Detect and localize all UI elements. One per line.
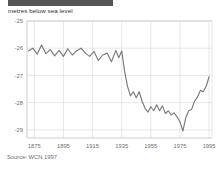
x-tick-label: 1955 (144, 143, 157, 149)
axes-group (27, 21, 212, 138)
x-tick-label: 1875 (28, 143, 41, 149)
y-axis-tick-labels: -25-26-27-28-29 (15, 18, 23, 133)
data-series-group (28, 45, 209, 131)
plot-area: -25-26-27-28-29 187518951915193519551975… (0, 0, 222, 170)
x-tick-label: 1995 (203, 143, 216, 149)
x-tick-label: 1915 (86, 143, 99, 149)
x-axis-tick-labels: 1875189519151935195519751995 (28, 143, 216, 149)
line-chart-svg: -25-26-27-28-29 187518951915193519551975… (0, 0, 222, 170)
y-tick-label: -28 (15, 100, 23, 106)
y-tick-label: -25 (15, 18, 23, 24)
series-line (28, 45, 209, 131)
y-tick-label: -26 (15, 45, 23, 51)
x-tick-label: 1975 (173, 143, 186, 149)
source-note: Source: WCN 1997 (7, 154, 57, 160)
y-tick-label: -29 (15, 127, 23, 133)
y-tick-label: -27 (15, 73, 23, 79)
x-tick-label: 1895 (57, 143, 70, 149)
chart-figure: metres below sea level -25-26-27-28-29 1… (0, 0, 222, 170)
x-tick-label: 1935 (115, 143, 128, 149)
gridlines-group (27, 21, 212, 138)
